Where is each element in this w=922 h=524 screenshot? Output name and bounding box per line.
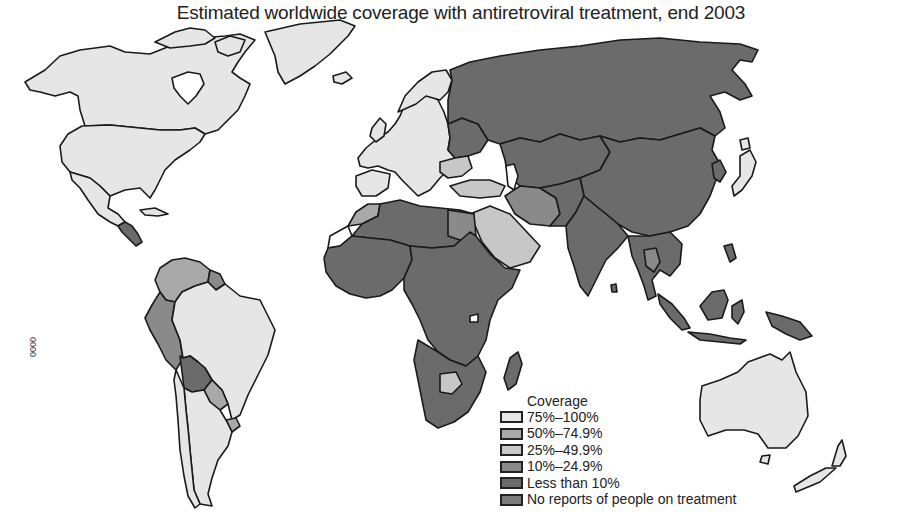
region-new-guinea — [766, 312, 812, 340]
legend-label: 10%–24.9% — [527, 459, 603, 474]
legend-title: Coverage — [527, 393, 736, 409]
legend-item: No reports of people on treatment — [500, 492, 736, 509]
region-java — [688, 332, 746, 344]
region-sri-lanka — [611, 284, 617, 292]
legend-label: 25%–49.9% — [527, 443, 603, 458]
world-map — [0, 0, 922, 524]
legend-item: 10%–24.9% — [500, 459, 736, 476]
region-philippines — [724, 244, 736, 262]
legend-item: 25%–49.9% — [500, 442, 736, 459]
legend-swatch — [500, 428, 523, 440]
region-new-zealand — [832, 440, 846, 466]
legend-label: 75%–100% — [527, 410, 599, 425]
region-lake-victoria — [470, 314, 478, 322]
legend-label: No reports of people on treatment — [527, 492, 736, 507]
region-borneo — [700, 290, 728, 320]
legend-swatch — [500, 477, 523, 489]
region-hokkaido — [740, 138, 750, 150]
region-tasmania — [760, 455, 770, 464]
legend-swatch — [500, 444, 523, 456]
region-iberia — [356, 170, 390, 196]
region-russia — [448, 38, 758, 144]
region-madagascar — [504, 352, 522, 390]
region-japan — [732, 150, 756, 196]
legend-swatch — [500, 494, 523, 506]
legend-swatch — [500, 411, 523, 423]
legend-swatch — [500, 461, 523, 473]
region-korea — [712, 160, 726, 182]
side-code: 0000 — [28, 337, 38, 357]
region-turkey — [450, 180, 505, 198]
legend-item: 75%–100% — [500, 409, 736, 426]
legend-item: 50%–74.9% — [500, 426, 736, 443]
region-new-zealand-south — [794, 468, 836, 492]
region-central-america — [118, 222, 142, 246]
legend-item: Less than 10% — [500, 475, 736, 492]
legend-label: 50%–74.9% — [527, 426, 603, 441]
region-sumatra — [658, 294, 690, 330]
legend: Coverage 75%–100% 50%–74.9% 25%–49.9% 10… — [500, 393, 736, 508]
legend-label: Less than 10% — [527, 476, 620, 491]
region-sulawesi — [732, 300, 744, 324]
region-cuba — [140, 208, 168, 216]
region-iceland — [333, 72, 352, 84]
